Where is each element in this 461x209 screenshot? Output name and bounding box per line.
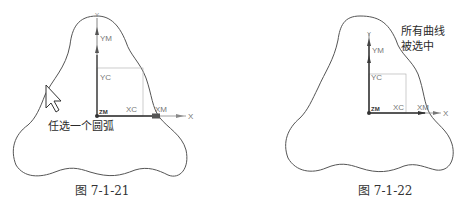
xm-marker: [152, 114, 160, 119]
ym-label: YM: [100, 34, 112, 43]
zm-label: ZM: [371, 106, 380, 112]
annotation-line-1: 所有曲线: [401, 24, 445, 39]
ym-arrow-icon: [95, 27, 99, 35]
figure-7-1-22: Y YM YC XC XM X ZM 所有曲线 被选中 图 7-1-22: [230, 0, 461, 209]
yc-label: YC: [371, 73, 382, 82]
xm-label: XM: [155, 105, 167, 114]
ym-label: YM: [372, 46, 384, 55]
caption-figure-7-1-21: 图 7-1-21: [75, 181, 129, 198]
caption-figure-7-1-22: 图 7-1-22: [358, 181, 412, 198]
xm-label: XM: [417, 103, 429, 112]
x-arrow-icon: [433, 111, 440, 115]
arrow-cursor-icon: [46, 85, 61, 112]
annotation-line-2: 被选中: [401, 39, 445, 54]
x-label: X: [443, 109, 449, 118]
annotation-select-arc: 任选一个圆弧: [48, 119, 114, 134]
y-label: Y: [367, 31, 371, 37]
zm-label: ZM: [99, 109, 108, 115]
x-label: X: [188, 112, 194, 121]
ym-arrow-icon: [367, 38, 371, 46]
cad-viewport-1: YM YC XC XM X Y ZM: [0, 0, 230, 209]
y-label: Y: [95, 12, 99, 18]
annotation-all-curves-selected: 所有曲线 被选中: [401, 24, 445, 54]
yc-arrow-icon: [95, 45, 99, 53]
xc-label: XC: [393, 103, 404, 112]
figure-7-1-21: YM YC XC XM X Y ZM 任选一个圆弧 图 7-1-21: [0, 0, 230, 209]
x-arrow-icon: [176, 114, 184, 118]
yc-label: YC: [100, 73, 111, 82]
xc-label: XC: [126, 105, 137, 114]
